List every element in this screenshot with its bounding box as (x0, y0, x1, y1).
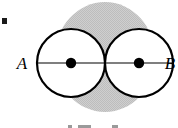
figure-canvas: A B (0, 0, 178, 128)
caption-glyph-top (68, 125, 72, 128)
caption-glyph-top (112, 125, 118, 128)
right-center-dot (134, 58, 144, 68)
caption-glyph-top (78, 125, 91, 128)
geometry-figure: A B (0, 0, 178, 128)
left-center-dot (66, 58, 76, 68)
scan-artifact-square (2, 18, 7, 24)
point-label-a: A (16, 54, 28, 73)
point-label-b: B (165, 54, 176, 73)
